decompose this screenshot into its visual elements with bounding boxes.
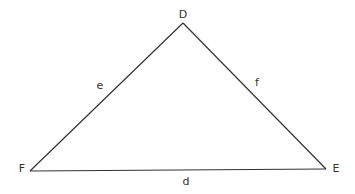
vertex-label-f: F bbox=[19, 162, 25, 175]
side-label-e: e bbox=[97, 79, 104, 92]
side-f bbox=[183, 23, 326, 169]
vertex-label-d: D bbox=[179, 8, 187, 21]
triangle-diagram: D F E e f d bbox=[0, 0, 355, 194]
side-label-f: f bbox=[255, 76, 260, 89]
side-label-d: d bbox=[183, 175, 190, 188]
side-d bbox=[30, 169, 326, 171]
side-e bbox=[30, 23, 183, 171]
vertex-label-e: E bbox=[333, 162, 340, 175]
